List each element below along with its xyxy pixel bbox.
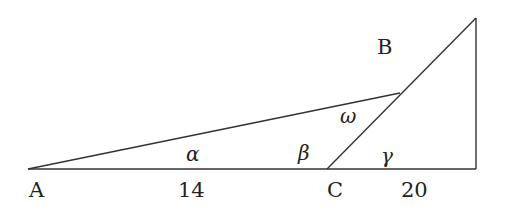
label-alpha: α: [186, 144, 200, 164]
label-c: C: [327, 180, 343, 201]
label-length-14: 14: [178, 180, 205, 201]
label-a: A: [29, 180, 44, 201]
label-length-20: 20: [401, 180, 428, 201]
label-b: B: [377, 37, 392, 58]
label-beta: β: [298, 143, 310, 163]
triangle-diagram: [0, 0, 505, 217]
label-gamma: γ: [381, 146, 393, 166]
segment-c-top: [327, 18, 476, 169]
label-omega: ω: [340, 106, 356, 126]
